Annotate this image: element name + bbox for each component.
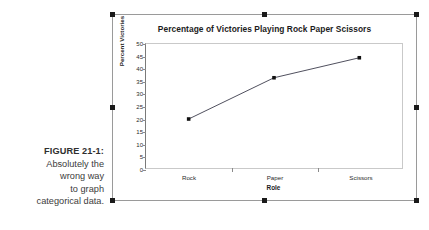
handle-bottom-left[interactable] [110,198,115,203]
plot-area: 05101520253035404550 RockPaperScissors [145,43,403,169]
chart-title: Percentage of Victories Playing Rock Pap… [112,24,417,34]
x-axis-title: Role [136,184,411,191]
data-point-marker [272,76,276,80]
y-tick-label: 25 [136,104,143,110]
x-tick-label: Paper [267,174,284,181]
caption-line-1: Absolutely the [0,158,104,171]
data-point-marker [187,117,191,121]
caption-line-2: wrong way [0,170,104,183]
handle-middle-left[interactable] [110,105,115,110]
caption-line-4: categorical data. [0,195,104,208]
caption-line-3: to graph [0,183,104,196]
y-tick-label: 20 [136,117,143,123]
handle-top-center[interactable] [262,12,267,17]
y-tick-label: 30 [136,91,143,97]
figure-number: FIGURE 21-1: [0,145,104,158]
handle-bottom-center[interactable] [262,198,267,203]
y-tick-label: 15 [136,129,143,135]
figure-caption: FIGURE 21-1: Absolutely the wrong way to… [0,145,104,208]
handle-middle-right[interactable] [414,105,419,110]
series-line [189,58,360,119]
y-axis-title: Percent Victories [118,6,125,76]
handle-top-left[interactable] [110,12,115,17]
y-tick-label: 40 [136,66,143,72]
y-tick-label: 10 [136,142,143,148]
data-series [146,44,402,169]
y-tick-label: 45 [136,54,143,60]
y-tick-label: 35 [136,79,143,85]
y-tick-label: 50 [136,41,143,47]
y-tick-mark [143,170,146,171]
chart-object[interactable]: Percentage of Victories Playing Rock Pap… [112,14,417,201]
x-tick-label: Scissors [349,174,372,181]
handle-top-right[interactable] [414,12,419,17]
x-tick-label: Rock [182,174,196,181]
data-point-marker [358,56,362,60]
handle-bottom-right[interactable] [414,198,419,203]
